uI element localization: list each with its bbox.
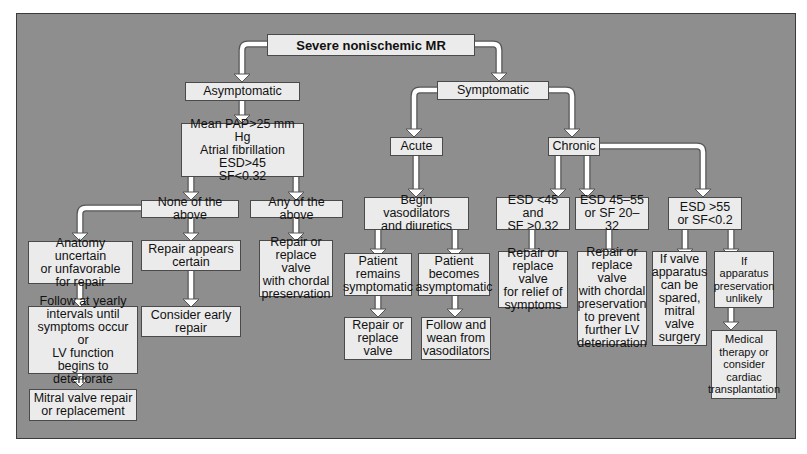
node-medical-therapy: Medical therapy or consider cardiac tran… [711,330,777,399]
node-repair-certain: Repair appears certain [141,240,241,271]
node-begin-vasodilators: Begin vasodilators and diuretics [364,197,469,230]
node-root: Severe nonischemic MR [267,34,475,56]
node-repair-relief: Repair or replace valve for relief of sy… [498,251,568,308]
node-esd-45-55: ESD 45–55 or SF 20–32 [575,197,649,230]
node-consider-early-repair: Consider early repair [141,306,241,337]
node-acute: Acute [390,137,443,156]
node-repair-chordal-any: Repair or replace valve with chordal pre… [259,240,333,297]
node-esd-gt55: ESD >55 or SF<0.2 [668,197,742,230]
node-chronic: Chronic [548,137,600,156]
node-asymptomatic: Asymptomatic [185,82,300,101]
node-follow-wean: Follow and wean from vasodilators [421,317,491,360]
node-remains-symptomatic: Patient remains symptomatic [344,253,412,296]
node-preservation-unlikely: If apparatus preservation unlikely [714,251,774,308]
node-esd-lt45: ESD <45 and SF >0.32 [496,197,570,230]
node-follow-yearly: Follow at yearly intervals until symptom… [28,306,138,374]
node-repair-replace-valve: Repair or replace valve [344,317,412,360]
node-criteria: Mean PAP>25 mm Hg Atrial fibrillation ES… [181,123,304,177]
node-becomes-asymptomatic: Patient becomes asymptomatic [418,253,490,296]
node-symptomatic: Symptomatic [437,81,549,100]
node-valve-spared: If valve apparatus can be spared, mitral… [652,251,707,346]
node-repair-chordal-prevent: Repair or replace valve with chordal pre… [577,251,647,345]
node-none-of-the-above: None of the above [141,200,239,218]
node-anatomy-uncertain: Anatomy uncertain or unfavorable for rep… [28,241,133,284]
node-any-of-the-above: Any of the above [250,200,343,218]
node-mitral-repair: Mitral valve repair or replacement [29,389,137,421]
